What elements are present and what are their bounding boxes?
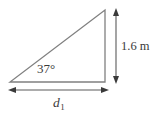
angle-label: 37° [37, 62, 55, 75]
base-symbol: d [53, 95, 60, 110]
arrowhead-up-icon [113, 8, 119, 16]
arrowhead-right-icon [101, 87, 109, 93]
triangle-graphic [0, 0, 163, 118]
base-subscript: 1 [60, 102, 65, 112]
arrowhead-down-icon [113, 76, 119, 84]
base-length-label: d1 [53, 96, 65, 112]
arrowhead-left-icon [8, 87, 16, 93]
height-label: 1.6 m [121, 40, 149, 53]
triangle-outline [10, 10, 105, 82]
geometry-diagram: 1.6 m 37° d1 [0, 0, 163, 118]
